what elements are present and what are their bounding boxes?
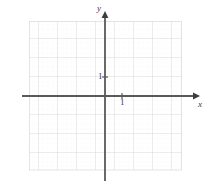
x-axis-label: x [198, 100, 202, 109]
x-unit-label: 1 [120, 98, 125, 107]
y-unit-label: 1 [98, 72, 103, 81]
y-axis-label: y [97, 4, 101, 13]
coordinate-plane-canvas [0, 0, 210, 191]
coordinate-plane-figure: y x 1 1 [0, 0, 210, 191]
arrow-up-icon [102, 11, 109, 18]
